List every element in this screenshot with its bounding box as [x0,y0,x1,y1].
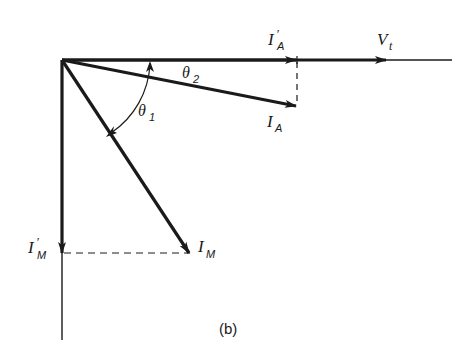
svg-text:I: I [266,112,274,131]
svg-text:θ: θ [182,64,190,81]
label-im-prime: I ′ M [27,234,47,261]
figure-caption: (b) [219,320,237,337]
label-ia: I A [266,112,282,134]
svg-text:′: ′ [36,234,39,249]
svg-text:1: 1 [149,111,155,123]
svg-text:2: 2 [192,73,199,85]
label-theta2: θ 2 [182,64,199,85]
phasor-diagram: I ′ A V t θ 2 θ 1 I A I M I ′ M (b) [0,0,475,356]
svg-text:A: A [276,40,284,52]
label-ia-prime: I ′ A [267,26,284,52]
svg-text:θ: θ [138,102,146,119]
label-im: I M [197,237,216,260]
svg-text:t: t [389,39,393,53]
label-theta1: θ 1 [138,102,155,123]
svg-text:M: M [37,249,47,261]
svg-text:I: I [197,237,205,256]
svg-text:A: A [274,122,282,134]
im-vector [62,60,189,253]
svg-text:M: M [206,248,216,260]
label-vt: V t [377,30,393,53]
svg-text:′: ′ [276,26,279,41]
ia-vector [62,60,296,106]
svg-text:I: I [27,238,35,257]
svg-text:I: I [267,30,275,49]
